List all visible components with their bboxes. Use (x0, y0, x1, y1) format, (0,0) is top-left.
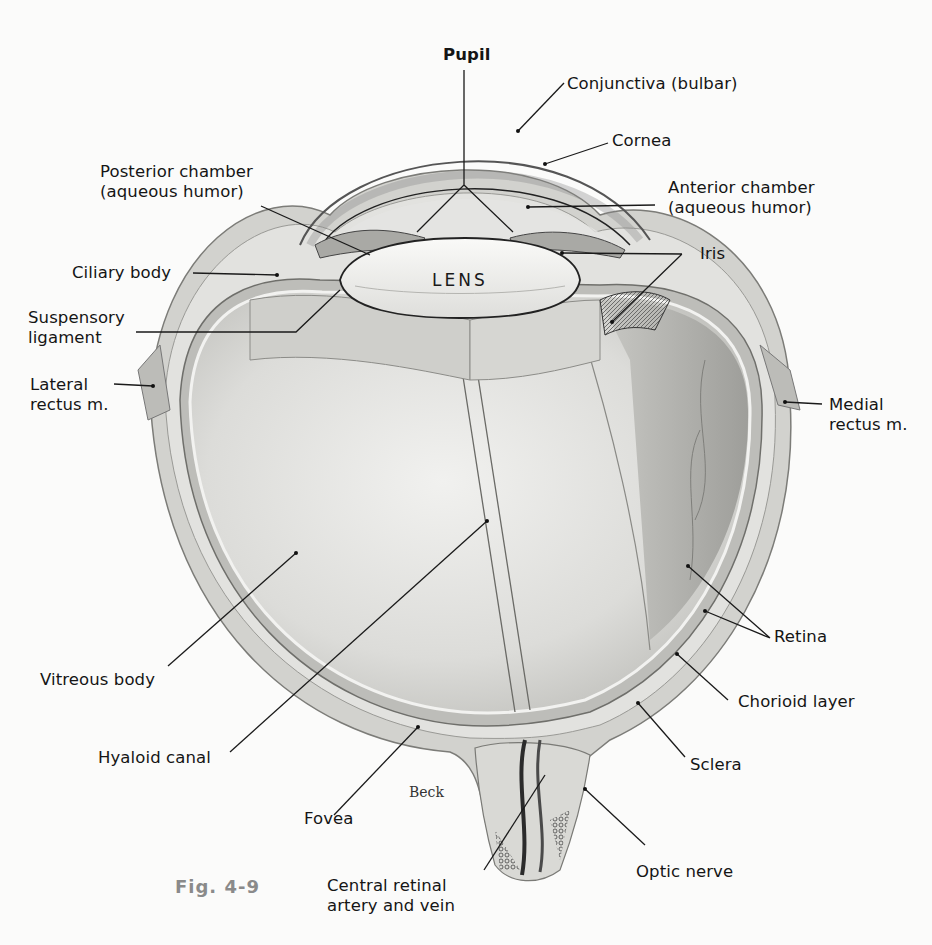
eye-illustration (0, 0, 932, 945)
label-lens: LENS (432, 270, 488, 290)
label-fovea: Fovea (304, 809, 354, 829)
label-central-retinal-line2: artery and vein (327, 896, 455, 916)
label-sclera: Sclera (690, 755, 742, 775)
label-lateral-rectus-line1: Lateral (30, 375, 109, 395)
label-suspensory-ligament: Suspensory ligament (28, 308, 125, 348)
label-central-retinal: Central retinal artery and vein (327, 876, 455, 916)
label-central-retinal-line1: Central retinal (327, 876, 455, 896)
label-ciliary-body: Ciliary body (72, 263, 171, 283)
label-anterior-chamber-line2: (aqueous humor) (668, 198, 815, 218)
label-optic-nerve: Optic nerve (636, 862, 733, 882)
eye-anatomy-diagram: Pupil Conjunctiva (bulbar) Cornea Poster… (0, 0, 932, 945)
label-iris: Iris (700, 244, 725, 264)
label-hyaloid-canal: Hyaloid canal (98, 748, 211, 768)
label-medial-rectus: Medial rectus m. (829, 395, 908, 435)
optic-nerve-shape (475, 740, 590, 881)
label-posterior-chamber: Posterior chamber (aqueous humor) (100, 162, 253, 202)
label-chorioid-layer: Chorioid layer (738, 692, 855, 712)
label-conjunctiva: Conjunctiva (bulbar) (567, 74, 738, 94)
label-posterior-chamber-line2: (aqueous humor) (100, 182, 253, 202)
label-medial-rectus-line2: rectus m. (829, 415, 908, 435)
label-anterior-chamber-line1: Anterior chamber (668, 178, 815, 198)
label-retina: Retina (774, 627, 827, 647)
label-medial-rectus-line1: Medial (829, 395, 908, 415)
label-suspensory-line2: ligament (28, 328, 125, 348)
figure-caption: Fig. 4-9 (175, 876, 260, 897)
label-anterior-chamber: Anterior chamber (aqueous humor) (668, 178, 815, 218)
label-vitreous-body: Vitreous body (40, 670, 155, 690)
artist-signature: Beck (409, 784, 444, 800)
label-suspensory-line1: Suspensory (28, 308, 125, 328)
label-lateral-rectus: Lateral rectus m. (30, 375, 109, 415)
label-posterior-chamber-line1: Posterior chamber (100, 162, 253, 182)
label-pupil: Pupil (443, 45, 490, 65)
label-lateral-rectus-line2: rectus m. (30, 395, 109, 415)
label-cornea: Cornea (612, 131, 671, 151)
